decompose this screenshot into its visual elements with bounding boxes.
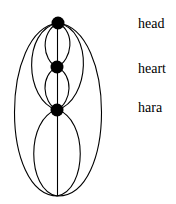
label-heart: heart xyxy=(138,62,166,76)
label-head: head xyxy=(138,17,164,31)
hara-node xyxy=(51,104,64,117)
heart-node xyxy=(51,61,64,74)
head-node xyxy=(52,17,65,30)
label-hara: hara xyxy=(138,101,162,115)
